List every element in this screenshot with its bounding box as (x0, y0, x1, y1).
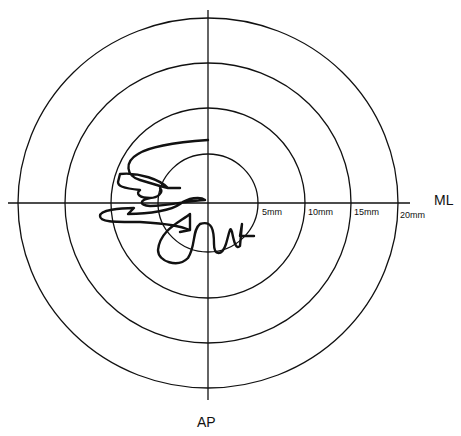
stabilogram (0, 0, 461, 436)
sway-trace (100, 140, 254, 263)
ap-axis-label: AP (197, 414, 216, 430)
ml-axis-label: ML (434, 192, 453, 208)
ring-label-20mm: 20mm (400, 210, 425, 220)
ring-label-10mm: 10mm (308, 207, 333, 217)
ring-label-15mm: 15mm (354, 207, 379, 217)
ring-label-5mm: 5mm (262, 207, 282, 217)
